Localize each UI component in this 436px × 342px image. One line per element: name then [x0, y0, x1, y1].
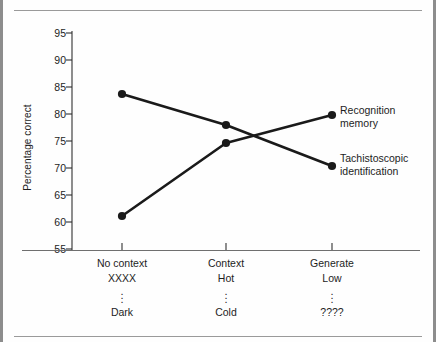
x-category-generate: Generate Low ... ????	[272, 256, 392, 320]
x-axis-ticks	[122, 243, 332, 250]
series-label-recognition-memory: Recognition memory	[340, 104, 395, 130]
series-line-recognition-memory	[122, 115, 332, 216]
series-label-line1: Recognition	[340, 104, 395, 117]
data-point	[222, 121, 230, 129]
x-category-line2: Low	[272, 271, 392, 286]
x-category-line4: Dark	[62, 305, 182, 320]
data-point	[328, 111, 336, 119]
x-category-context: Context Hot ... Cold	[166, 256, 286, 320]
x-category-ellipsis: ...	[166, 286, 286, 305]
data-point	[328, 162, 336, 170]
x-category-no-context: No context XXXX ... Dark	[62, 256, 182, 320]
x-category-line4: Cold	[166, 305, 286, 320]
series-label-line2: memory	[340, 117, 395, 130]
data-point	[118, 90, 126, 98]
x-category-line2: Hot	[166, 271, 286, 286]
series-label-tachistoscopic-identification: Tachistoscopic identification	[340, 152, 408, 178]
series-label-line1: Tachistoscopic	[340, 152, 408, 165]
series-label-line2: identification	[340, 165, 408, 178]
x-category-line4: ????	[272, 305, 392, 320]
x-category-line1: Context	[166, 256, 286, 271]
figure-panel: Percentage correct 95 90 85 80 75 70 65 …	[0, 0, 436, 342]
data-point	[118, 212, 126, 220]
x-category-line2: XXXX	[62, 271, 182, 286]
x-category-line1: Generate	[272, 256, 392, 271]
y-axis-ticks	[66, 33, 72, 249]
data-point	[222, 139, 230, 147]
x-category-ellipsis: ...	[272, 286, 392, 305]
series-line-tachistoscopic-identification	[122, 94, 332, 166]
x-category-ellipsis: ...	[62, 286, 182, 305]
x-category-line1: No context	[62, 256, 182, 271]
